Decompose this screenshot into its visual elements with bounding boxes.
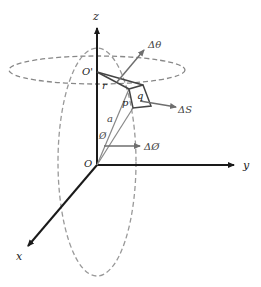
delta-phi-label: ΔØ	[143, 141, 160, 152]
y-axis-label: y	[242, 159, 250, 172]
o-prime-label: O'	[82, 66, 93, 77]
p-label: p	[122, 97, 129, 108]
delta-theta-vector	[117, 50, 144, 82]
delta-s-label: ΔS	[177, 104, 192, 115]
r-label: r	[102, 80, 108, 91]
origin-label: O	[84, 158, 92, 169]
z-axis-label: z	[92, 10, 99, 23]
phi-angle-label: Ø	[98, 131, 107, 141]
spherical-coordinates-diagram: z y x O O' r p q a Ø Δθ ΔS ΔØ	[0, 0, 261, 287]
diagram-canvas: z y x O O' r p q a Ø Δθ ΔS ΔØ	[0, 0, 261, 287]
x-axis	[28, 165, 97, 246]
x-axis-label: x	[16, 250, 23, 263]
a-label: a	[107, 113, 113, 124]
delta-theta-label: Δθ	[147, 39, 161, 50]
q-label: q	[137, 90, 143, 101]
